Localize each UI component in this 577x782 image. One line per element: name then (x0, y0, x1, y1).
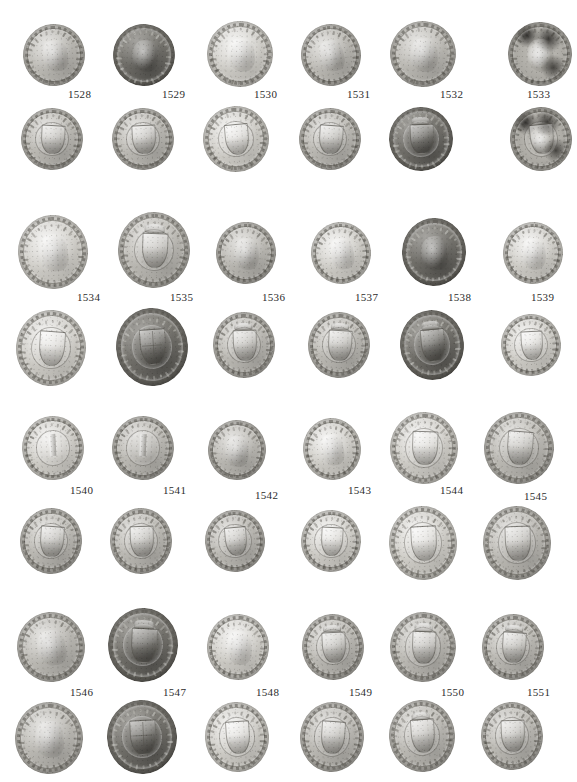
coin-reverse-1539 (499, 312, 562, 377)
coin-surface-grain (499, 312, 562, 377)
coin-surface-grain (297, 106, 363, 172)
coin-obverse-1530 (206, 20, 274, 88)
coin-surface-grain (480, 612, 546, 682)
coin-surface-grain (18, 506, 84, 576)
coin-obverse-1544 (389, 411, 459, 485)
coin-surface-grain (19, 106, 84, 171)
catalog-number-label-1532: 1532 (440, 88, 463, 100)
catalog-number-label-1551: 1551 (527, 686, 550, 698)
catalog-number-label-1548: 1548 (256, 686, 279, 698)
coin-reverse-1549 (298, 700, 367, 774)
coin-obverse-1538 (401, 217, 467, 287)
coin-surface-grain (387, 504, 459, 581)
catalog-number-label-1546: 1546 (70, 686, 93, 698)
coin-surface-grain (388, 106, 454, 172)
coin-surface-grain (110, 106, 175, 171)
coin-surface-grain (299, 508, 362, 573)
coin-surface-grain (16, 213, 90, 291)
coin-obverse-1551 (480, 612, 546, 682)
coin-surface-grain (482, 505, 553, 581)
coin-surface-grain (482, 410, 557, 487)
coin-reverse-1543 (299, 508, 362, 573)
coin-reverse-1536 (212, 311, 276, 379)
catalog-number-label-1538: 1538 (448, 291, 471, 303)
coin-surface-grain (306, 310, 371, 379)
coin-surface-grain (13, 308, 88, 389)
coin-surface-grain (20, 414, 85, 481)
coin-surface-grain (506, 20, 573, 87)
coin-obverse-1545 (482, 410, 557, 487)
coin-surface-grain (109, 507, 173, 575)
coin-surface-grain (309, 220, 373, 286)
coin-surface-grain (106, 606, 180, 684)
catalog-number-label-1545: 1545 (524, 490, 547, 502)
coin-surface-grain (387, 18, 459, 90)
catalog-number-label-1531: 1531 (347, 88, 370, 100)
coin-obverse-1529 (110, 21, 178, 89)
coin-reverse-1530 (200, 103, 272, 175)
coin-reverse-1547 (105, 698, 179, 776)
coin-reverse-1540 (18, 506, 84, 576)
coin-obverse-1543 (301, 416, 363, 482)
catalog-number-label-1528: 1528 (68, 88, 91, 100)
coin-reverse-1546 (13, 700, 85, 775)
coin-surface-grain (389, 411, 459, 485)
catalog-number-label-1540: 1540 (70, 484, 93, 496)
coin-surface-grain (212, 311, 276, 379)
catalog-number-label-1539: 1539 (531, 291, 554, 303)
coin-surface-grain (297, 20, 365, 90)
coin-obverse-1548 (204, 611, 272, 682)
coin-reverse-1542 (202, 508, 267, 575)
coin-obverse-1528 (21, 22, 87, 88)
coin-obverse-1540 (20, 414, 85, 481)
coin-surface-grain (206, 20, 274, 88)
catalog-number-label-1544: 1544 (440, 484, 463, 496)
coin-surface-grain (204, 611, 272, 682)
coin-surface-grain (298, 700, 367, 774)
coin-obverse-1536 (213, 220, 278, 287)
coin-reverse-1538 (397, 307, 467, 382)
coin-obverse-1537 (309, 220, 373, 286)
coin-surface-grain (205, 417, 269, 483)
coin-surface-grain (507, 104, 575, 174)
coin-obverse-1535 (117, 211, 192, 289)
coin-obverse-1547 (106, 606, 180, 684)
coin-obverse-1539 (501, 220, 565, 286)
coin-reverse-1534 (13, 308, 88, 389)
catalog-number-label-1534: 1534 (77, 291, 100, 303)
coin-surface-grain (105, 698, 179, 776)
coin-reverse-1550 (387, 698, 458, 774)
coin-obverse-1549 (300, 612, 365, 681)
catalog-number-label-1533: 1533 (527, 88, 550, 100)
coin-surface-grain (389, 611, 457, 683)
coin-reverse-1529 (110, 106, 175, 171)
coin-surface-grain (21, 22, 87, 88)
coin-reverse-1551 (480, 701, 544, 771)
coin-surface-grain (213, 220, 278, 287)
coin-reverse-1541 (109, 507, 173, 575)
catalog-number-label-1547: 1547 (163, 686, 186, 698)
coin-obverse-1546 (15, 610, 88, 685)
catalog-number-label-1543: 1543 (348, 484, 371, 496)
coin-obverse-1542 (205, 417, 269, 483)
coin-surface-grain (113, 306, 190, 389)
coin-surface-grain (203, 700, 272, 774)
coin-surface-grain (110, 21, 178, 89)
coin-surface-grain (387, 698, 458, 774)
coin-reverse-1533 (507, 104, 575, 174)
catalog-number-label-1550: 1550 (441, 686, 464, 698)
coin-surface-grain (480, 701, 544, 771)
coin-reverse-1528 (19, 106, 84, 171)
coin-obverse-1531 (297, 20, 365, 90)
coin-surface-grain (202, 508, 267, 575)
coin-reverse-1548 (203, 700, 272, 774)
coin-surface-grain (200, 103, 272, 175)
catalog-number-label-1541: 1541 (163, 484, 186, 496)
catalog-number-label-1529: 1529 (162, 88, 185, 100)
coin-reverse-1544 (387, 504, 459, 581)
catalog-number-label-1537: 1537 (355, 291, 378, 303)
catalog-number-label-1542: 1542 (255, 489, 278, 501)
catalog-number-label-1535: 1535 (170, 291, 193, 303)
coin-reverse-1531 (297, 106, 363, 172)
coin-reverse-1537 (306, 310, 371, 379)
